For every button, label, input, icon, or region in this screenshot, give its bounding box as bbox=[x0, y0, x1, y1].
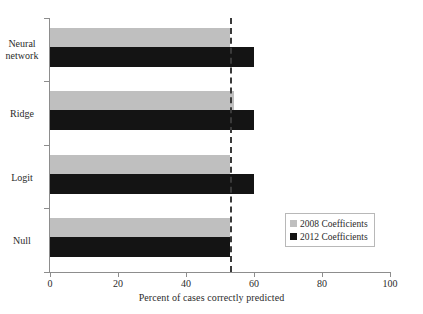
legend-item-2008: 2008 Coefficients bbox=[290, 217, 368, 230]
legend-label: 2012 Coefficients bbox=[300, 231, 368, 243]
category-label-logit: Logit bbox=[0, 172, 44, 184]
category-label-line: network bbox=[0, 50, 44, 62]
bar-null-2008 bbox=[50, 218, 230, 237]
x-axis-tick-label: 20 bbox=[98, 278, 138, 290]
x-axis-tick-label: 60 bbox=[234, 278, 274, 290]
legend-item-2012: 2012 Coefficients bbox=[290, 230, 368, 243]
category-label-ridge: Ridge bbox=[0, 108, 44, 120]
x-axis-tick bbox=[186, 272, 187, 277]
bar-neural-network-2012 bbox=[50, 47, 254, 67]
x-axis-title: Percent of cases correctly predicted bbox=[0, 292, 423, 303]
legend-swatch-icon bbox=[290, 220, 297, 227]
bar-ridge-2012 bbox=[50, 110, 254, 130]
category-label-line: Neural bbox=[0, 38, 44, 50]
category-label-line: Ridge bbox=[0, 108, 44, 120]
x-axis-tick bbox=[390, 272, 391, 277]
bar-null-2012 bbox=[50, 237, 230, 257]
category-label-line: Null bbox=[0, 235, 44, 247]
x-axis-tick-label: 0 bbox=[30, 278, 70, 290]
x-axis-tick bbox=[50, 272, 51, 277]
bar-logit-2008 bbox=[50, 155, 230, 174]
bar-logit-2012 bbox=[50, 174, 254, 194]
bar-chart: Neural network Ridge Logit Null 0 20 40 … bbox=[0, 0, 423, 314]
category-label-neural-network: Neural network bbox=[0, 38, 44, 61]
category-label-line: Logit bbox=[0, 172, 44, 184]
category-label-null: Null bbox=[0, 235, 44, 247]
x-axis-tick bbox=[118, 272, 119, 277]
bar-ridge-2008 bbox=[50, 91, 234, 110]
bar-neural-network-2008 bbox=[50, 28, 230, 47]
reference-line-53 bbox=[230, 18, 232, 272]
legend-label: 2008 Coefficients bbox=[300, 218, 368, 230]
x-axis-line bbox=[49, 272, 390, 273]
x-axis-tick bbox=[322, 272, 323, 277]
x-axis-tick-label: 40 bbox=[166, 278, 206, 290]
x-axis-tick bbox=[254, 272, 255, 277]
legend-swatch-icon bbox=[290, 233, 297, 240]
x-axis-tick-label: 80 bbox=[302, 278, 342, 290]
x-axis-tick-label: 100 bbox=[370, 278, 410, 290]
chart-legend: 2008 Coefficients 2012 Coefficients bbox=[285, 213, 375, 247]
